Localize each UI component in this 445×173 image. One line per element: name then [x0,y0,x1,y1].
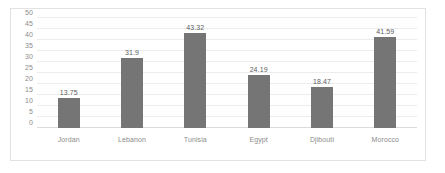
bar-djibouti[interactable] [311,87,333,128]
x-axis-labels: JordanLebanonTunisiaEgyptDjiboutiMorocco [37,136,417,150]
y-axis-tick-label: 0 [29,118,33,125]
bar-value-label: 18.47 [313,78,331,85]
x-axis-label-morocco: Morocco [354,136,417,150]
bars-container: 13.7531.943.3224.1918.4741.59 [37,18,417,128]
y-axis-tick-label: 45 [25,19,33,26]
bar-group[interactable]: 13.75 [37,18,100,128]
bar-group[interactable]: 43.32 [164,18,227,128]
bar-value-label: 41.59 [376,28,394,35]
bar-value-label: 24.19 [250,66,268,73]
bar-chart-figure: 05101520253035404550 13.7531.943.3224.19… [10,8,426,161]
x-axis-label-egypt: Egypt [227,136,290,150]
x-axis-label-djibouti: Djibouti [290,136,353,150]
x-axis-label-tunisia: Tunisia [164,136,227,150]
x-axis-label-jordan: Jordan [37,136,100,150]
y-axis-tick-label: 40 [25,30,33,37]
y-axis-tick-label: 20 [25,74,33,81]
y-axis-tick-label: 50 [25,8,33,15]
bar-group[interactable]: 41.59 [354,18,417,128]
plot-area: 05101520253035404550 13.7531.943.3224.19… [37,18,417,128]
bar-tunisia[interactable] [184,33,206,128]
bar-group[interactable]: 18.47 [290,18,353,128]
bar-value-label: 43.32 [186,24,204,31]
y-axis-tick-label: 35 [25,41,33,48]
y-axis-tick-label: 15 [25,85,33,92]
bar-value-label: 13.75 [60,89,78,96]
bar-group[interactable]: 24.19 [227,18,290,128]
bar-egypt[interactable] [248,75,270,128]
y-axis-tick-label: 10 [25,96,33,103]
bar-morocco[interactable] [374,37,396,128]
x-axis-label-lebanon: Lebanon [100,136,163,150]
y-axis-tick-label: 25 [25,63,33,70]
y-axis-tick-label: 5 [29,107,33,114]
bar-lebanon[interactable] [121,58,143,128]
bar-group[interactable]: 31.9 [100,18,163,128]
bar-jordan[interactable] [58,98,80,128]
y-axis-tick-label: 30 [25,52,33,59]
bar-value-label: 31.9 [125,49,139,56]
